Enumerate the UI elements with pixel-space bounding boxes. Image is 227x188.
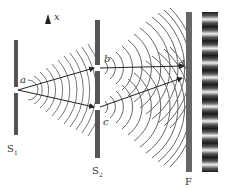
x-axis-indicator: x xyxy=(45,11,60,24)
wavefronts-from-a xyxy=(28,44,103,136)
axis-label-x: x xyxy=(54,11,60,22)
svg-text:S: S xyxy=(7,143,14,154)
point-d-label: d xyxy=(178,58,184,69)
svg-text:2: 2 xyxy=(99,171,103,178)
barrier-s1: S 1 xyxy=(7,40,18,156)
interference-fringes xyxy=(202,12,218,172)
point-c-label: c xyxy=(103,116,109,127)
screen-f: F xyxy=(185,12,192,187)
double-slit-diagram: x xyxy=(0,0,227,188)
svg-text:S: S xyxy=(92,165,99,176)
point-a-label: a xyxy=(20,74,26,85)
svg-text:1: 1 xyxy=(14,149,18,156)
barrier-s2: S 2 xyxy=(92,20,103,178)
up-arrow-icon xyxy=(45,14,51,24)
point-b-label: b xyxy=(104,53,110,64)
svg-text:F: F xyxy=(185,176,192,187)
